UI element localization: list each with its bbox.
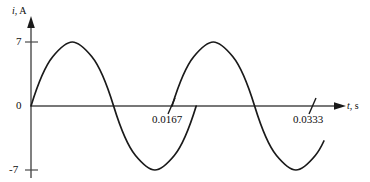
x-axis-arrowhead [334,102,346,110]
x-axis-label-units: , s [350,100,359,111]
x-tick-label-0333: 0.0333 [293,114,323,125]
x-axis-label: t, s [347,101,359,111]
y-axis-label: i, A [12,6,26,16]
y-axis-label-units: , A [15,5,27,16]
y-tick-label-positive-seven: 7 [16,36,22,47]
current-waveform-figure: i, A t, s 7 0 -7 0.0167 0.0333 [0,0,370,182]
y-tick-label-zero: 0 [16,100,22,111]
y-axis-arrowhead [27,16,35,28]
y-tick-label-negative-seven: -7 [9,164,18,175]
x-tick-label-0167: 0.0167 [152,114,182,125]
waveform-svg [0,0,370,182]
